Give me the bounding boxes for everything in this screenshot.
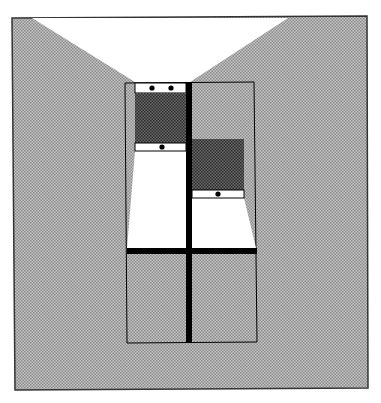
left-sash [135,83,186,151]
handle-icon [168,85,173,90]
window-light-left [127,151,187,248]
handle-icon [149,85,154,90]
handle-icon [159,144,164,149]
right-sash [192,139,244,198]
handle-icon [215,191,220,196]
horizontal-mullion [127,248,257,254]
vertical-mullion [186,82,192,343]
room-diagram [0,0,381,403]
